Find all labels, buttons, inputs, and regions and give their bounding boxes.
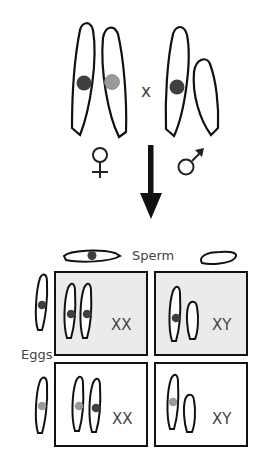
down-arrow-icon xyxy=(140,145,162,219)
female-x-chromosome-2 xyxy=(102,28,126,137)
light-allele-icon xyxy=(105,75,120,90)
female-x-chromosome-1 xyxy=(72,23,95,135)
egg-x-chromosome-dark xyxy=(36,275,47,330)
punnett-cell-xx-top: XX xyxy=(55,272,147,355)
genotype-label: XX xyxy=(111,316,132,334)
genotype-label: XY xyxy=(212,410,232,428)
dark-allele-icon xyxy=(170,80,185,95)
eggs-label: Eggs xyxy=(21,347,53,362)
dark-allele-icon xyxy=(77,76,92,91)
sperm-y-chromosome xyxy=(201,252,236,264)
punnett-cell-xx-bottom: XX xyxy=(55,363,147,446)
punnett-cell-xy-bottom: XY xyxy=(155,363,247,446)
female-symbol-icon xyxy=(92,148,108,178)
sperm-label: Sperm xyxy=(132,248,174,263)
sperm-x-chromosome xyxy=(64,251,120,262)
genotype-label: XX xyxy=(112,410,133,428)
cross-symbol: x xyxy=(141,81,151,101)
male-y-chromosome xyxy=(194,59,218,135)
egg-x-chromosome-light xyxy=(36,378,47,433)
male-x-chromosome xyxy=(166,27,189,136)
genotype-label: XY xyxy=(212,316,232,334)
punnett-cell-xy-top: XY xyxy=(155,272,247,355)
male-symbol-icon xyxy=(179,148,205,175)
